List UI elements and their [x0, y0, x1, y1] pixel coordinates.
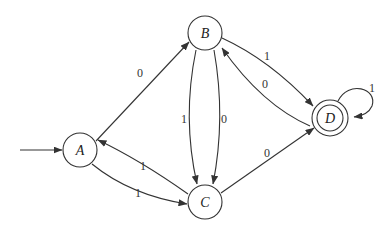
- edge-label-a-b: 0: [137, 66, 143, 80]
- state-diagram: 0 1 0 1 1 0 1 1 0 A B C D: [0, 0, 390, 232]
- state-a: A: [63, 133, 97, 167]
- svg-text:C: C: [200, 195, 210, 210]
- state-c: C: [188, 185, 222, 219]
- state-d-accepting: D: [312, 100, 348, 136]
- edge-b-to-c-right: [213, 50, 220, 184]
- edge-label-d-b: 0: [262, 77, 268, 91]
- edge-c-to-d: [221, 128, 314, 193]
- edge-label-b-c-left: 1: [181, 112, 187, 126]
- svg-text:B: B: [201, 26, 210, 41]
- state-b: B: [188, 16, 222, 50]
- edge-label-c-a: 1: [140, 159, 146, 173]
- edge-label-a-c: 1: [135, 186, 141, 200]
- edge-label-b-c-right: 0: [221, 112, 227, 126]
- edge-label-c-d: 0: [264, 146, 270, 160]
- edge-b-to-c-left: [189, 50, 197, 184]
- svg-text:A: A: [75, 143, 85, 158]
- edge-a-to-b: [96, 42, 189, 141]
- svg-text:D: D: [324, 111, 335, 126]
- edge-label-d-d: 1: [369, 81, 375, 95]
- edge-label-b-d: 1: [264, 49, 270, 63]
